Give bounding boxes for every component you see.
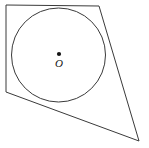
center-point-label: O: [55, 57, 63, 69]
figure-canvas: O: [0, 0, 149, 148]
quadrilateral-shape: [6, 5, 139, 141]
center-point-dot: [57, 52, 61, 56]
geometry-figure: O: [0, 0, 149, 148]
